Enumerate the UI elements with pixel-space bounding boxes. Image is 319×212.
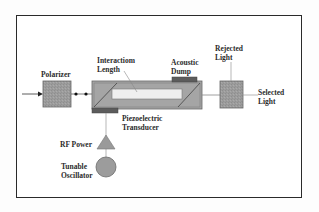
interaction-length-label-line1: Interactiom (97, 56, 135, 65)
acoustic-dump-label-line1: Acoustic (171, 58, 199, 67)
rejected-light-label-line1: Rejected (215, 44, 243, 53)
piezoelectric-transducer-block (92, 108, 118, 113)
rf-power-triangle (97, 135, 115, 149)
rf-power-label: RF Power (60, 140, 92, 149)
input-beam-arrow (22, 92, 43, 97)
piezoelectric-transducer-label-line1: Piezoelectric (122, 114, 162, 123)
selected-light-label-line1: Selected (258, 88, 284, 97)
diagram-canvas: Polarizer Interactiom Length Acoustic Du… (0, 0, 319, 212)
polarizer-label: Polarizer (41, 70, 71, 79)
polarized-beam (71, 92, 92, 95)
aotf-diagram (0, 0, 319, 212)
acoustic-dump-label-line2: Dump (171, 67, 191, 76)
tunable-oscillator-label-line2: Oscillator (61, 171, 93, 180)
rejected-light-label-line2: Light (215, 53, 233, 62)
output-polarizer-box (220, 81, 243, 108)
selected-light-label-line2: Light (258, 97, 276, 106)
acoustic-dump-block (172, 77, 197, 82)
interaction-length-label-line2: Length (97, 65, 120, 74)
tunable-oscillator-label-line1: Tunable (61, 162, 87, 171)
tunable-oscillator-circle (96, 157, 116, 177)
aotf-crystal (92, 81, 202, 109)
interaction-region (112, 89, 182, 99)
polarizer-box (43, 81, 71, 107)
piezoelectric-transducer-label-line2: Transducer (122, 123, 159, 132)
